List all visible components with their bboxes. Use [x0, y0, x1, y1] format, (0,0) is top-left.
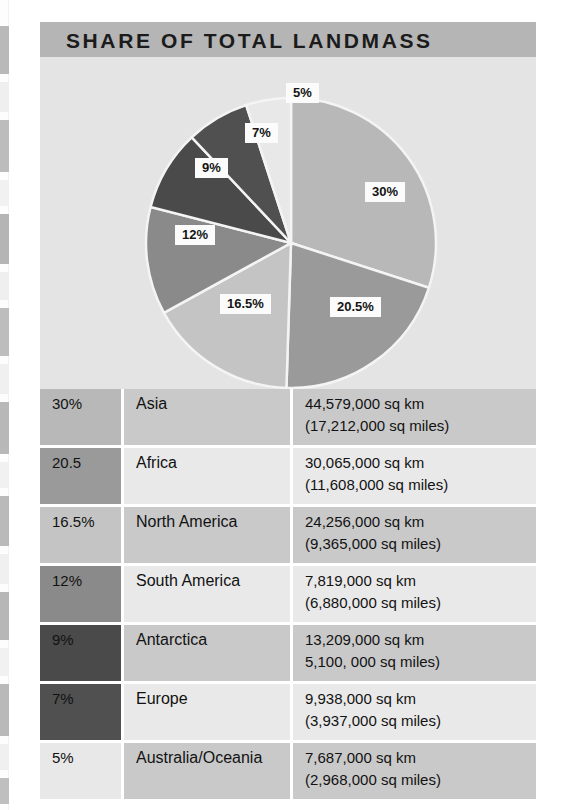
row-percent-label: 12% [52, 572, 82, 589]
title-band: SHARE OF TOTAL LANDMASS [40, 22, 536, 57]
row-area-cell: 30,065,000 sq km(11,608,000 sq miles) [293, 448, 536, 504]
scan-bleed-block [0, 462, 9, 488]
scan-bleed-block [0, 214, 9, 264]
pie-slice-label: 7% [245, 123, 278, 143]
table-row: 12%South America7,819,000 sq km(6,880,00… [40, 566, 536, 622]
table-row: 9%Antarctica13,209,000 sq km5,100, 000 s… [40, 625, 536, 681]
row-area-cell: 9,938,000 sq km(3,937,000 sq miles) [293, 684, 536, 740]
row-region-cell: Antarctica [124, 625, 290, 681]
scan-bleed-block [0, 648, 9, 676]
row-area-cell: 44,579,000 sq km(17,212,000 sq miles) [293, 389, 536, 445]
row-area-miles: (3,937,000 sq miles) [305, 712, 441, 729]
scan-bleed-block [0, 778, 9, 804]
scan-bleed-block [0, 402, 9, 454]
pie-slice-label: 5% [286, 83, 319, 103]
pie-slice-label: 12% [175, 225, 215, 245]
row-area-cell: 7,687,000 sq km(2,968,000 sq miles) [293, 743, 536, 799]
row-percent-label: 9% [52, 631, 74, 648]
row-region-label: Europe [136, 690, 188, 708]
table-row: 7%Europe9,938,000 sq km(3,937,000 sq mil… [40, 684, 536, 740]
row-region-label: North America [136, 513, 237, 531]
row-percent-swatch: 7% [40, 684, 121, 740]
row-region-label: Australia/Oceania [136, 749, 262, 767]
row-region-cell: North America [124, 507, 290, 563]
row-area-km: 24,256,000 sq km [305, 513, 424, 530]
row-area-miles: (2,968,000 sq miles) [305, 771, 441, 788]
row-percent-swatch: 9% [40, 625, 121, 681]
row-region-cell: South America [124, 566, 290, 622]
row-region-cell: Europe [124, 684, 290, 740]
row-area-miles: (17,212,000 sq miles) [305, 417, 449, 434]
scan-bleed-block [0, 120, 9, 172]
row-percent-swatch: 16.5% [40, 507, 121, 563]
row-area-km: 7,819,000 sq km [305, 572, 416, 589]
scan-bleed-block [0, 554, 9, 584]
row-region-label: South America [136, 572, 240, 590]
table-row: 20.5Africa30,065,000 sq km(11,608,000 sq… [40, 448, 536, 504]
row-area-cell: 24,256,000 sq km(9,365,000 sq miles) [293, 507, 536, 563]
pie-chart-panel: 30%20.5%16.5%12%9%7%5% [40, 57, 536, 389]
scan-bleed-block [0, 744, 9, 770]
pie-slice-label: 30% [365, 182, 405, 202]
row-percent-label: 7% [52, 690, 74, 707]
row-area-km: 7,687,000 sq km [305, 749, 416, 766]
table-row: 16.5%North America24,256,000 sq km(9,365… [40, 507, 536, 563]
row-region-cell: Africa [124, 448, 290, 504]
pie-chart-svg [40, 57, 536, 389]
row-region-label: Asia [136, 395, 167, 413]
row-area-miles: (11,608,000 sq miles) [305, 476, 448, 493]
row-percent-swatch: 12% [40, 566, 121, 622]
scan-bleed-block [0, 272, 9, 300]
scan-bleed-block [0, 180, 9, 206]
row-area-miles: (9,365,000 sq miles) [305, 535, 441, 552]
pie-slice-label: 20.5% [330, 297, 381, 317]
row-area-km: 44,579,000 sq km [305, 395, 424, 412]
scan-bleed-block [0, 684, 9, 736]
scan-bleed-block [0, 496, 9, 546]
pie-slice-label: 9% [195, 158, 228, 178]
row-percent-swatch: 20.5 [40, 448, 121, 504]
scan-bleed-block [0, 26, 9, 74]
table-row: 30%Asia44,579,000 sq km(17,212,000 sq mi… [40, 389, 536, 445]
row-percent-label: 20.5 [52, 454, 81, 471]
row-region-cell: Australia/Oceania [124, 743, 290, 799]
row-area-cell: 13,209,000 sq km5,100, 000 sq miles) [293, 625, 536, 681]
row-percent-swatch: 5% [40, 743, 121, 799]
landmass-chart-card: SHARE OF TOTAL LANDMASS 30%20.5%16.5%12%… [40, 22, 536, 787]
row-percent-label: 30% [52, 395, 82, 412]
scan-bleed-block [0, 308, 9, 356]
row-area-miles: 5,100, 000 sq miles) [305, 653, 440, 670]
scan-bleed-block [0, 82, 9, 112]
row-region-label: Africa [136, 454, 177, 472]
landmass-table: 30%Asia44,579,000 sq km(17,212,000 sq mi… [40, 389, 536, 802]
table-row: 5%Australia/Oceania7,687,000 sq km(2,968… [40, 743, 536, 799]
scan-bleed-block [0, 364, 9, 394]
row-percent-swatch: 30% [40, 389, 121, 445]
row-area-km: 30,065,000 sq km [305, 454, 424, 471]
row-region-cell: Asia [124, 389, 290, 445]
row-percent-label: 5% [52, 749, 74, 766]
row-area-miles: (6,880,000 sq miles) [305, 594, 441, 611]
page-title: SHARE OF TOTAL LANDMASS [66, 29, 433, 53]
scan-page-bleed [0, 0, 9, 810]
row-area-cell: 7,819,000 sq km(6,880,000 sq miles) [293, 566, 536, 622]
pie-slice-label: 16.5% [220, 294, 271, 314]
row-area-km: 13,209,000 sq km [305, 631, 424, 648]
row-percent-label: 16.5% [52, 513, 95, 530]
row-area-km: 9,938,000 sq km [305, 690, 416, 707]
row-region-label: Antarctica [136, 631, 207, 649]
scan-bleed-block [0, 592, 9, 640]
